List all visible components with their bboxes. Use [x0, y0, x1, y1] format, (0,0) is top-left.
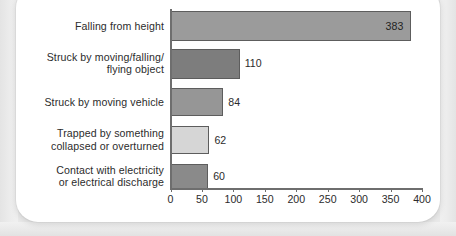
x-axis-tick [296, 188, 297, 192]
chart-page: Falling from height Struck by moving/fal… [0, 0, 456, 236]
bar-value-84: 84 [228, 96, 240, 108]
category-label-line: Struck by moving/falling/ [47, 51, 164, 63]
category-label-contact-with-electricity-or-electrical-discharge: Contact with electricityor electrical di… [4, 164, 164, 189]
x-axis-tick [422, 188, 423, 192]
category-label-line: Trapped by something [57, 127, 164, 139]
x-axis-tick-label: 400 [402, 193, 442, 205]
bar-contact-with-electricity-or-electrical-discharge [171, 164, 209, 190]
x-axis-tick [265, 188, 266, 192]
x-axis-tick [202, 188, 203, 192]
horizontal-bar-chart: Falling from height Struck by moving/fal… [0, 0, 456, 236]
bar-trapped-by-something-collapsed-or-overturned [171, 126, 210, 154]
category-label-line: Falling from height [75, 20, 164, 32]
bar-struck-by-moving-vehicle [171, 88, 224, 116]
x-axis-tick [171, 188, 172, 192]
x-axis-tick [391, 188, 392, 192]
bar-value-62: 62 [214, 134, 226, 146]
category-label-struck-by-moving-falling-flying-object: Struck by moving/falling/flying object [4, 51, 164, 76]
bar-value-60: 60 [213, 170, 225, 182]
category-label-trapped-by-something-collapsed-or-overturned: Trapped by somethingcollapsed or overtur… [4, 127, 164, 152]
category-label-line: or electrical discharge [59, 176, 164, 188]
category-label-line: flying object [107, 63, 164, 75]
bar-struck-by-moving-falling-flying-object [171, 49, 240, 79]
category-label-line: Struck by moving vehicle [44, 96, 164, 108]
y-axis-line [170, 9, 172, 189]
x-axis-tick [233, 188, 234, 192]
bar-value-110: 110 [245, 57, 262, 69]
category-label-struck-by-moving-vehicle: Struck by moving vehicle [4, 96, 164, 109]
bar-value-383: 383 [367, 20, 403, 32]
category-label-falling-from-height: Falling from height [4, 20, 164, 33]
x-axis-tick [359, 188, 360, 192]
x-axis-tick [328, 188, 329, 192]
category-label-line: Contact with electricity [56, 164, 164, 176]
category-label-line: collapsed or overturned [51, 140, 164, 152]
